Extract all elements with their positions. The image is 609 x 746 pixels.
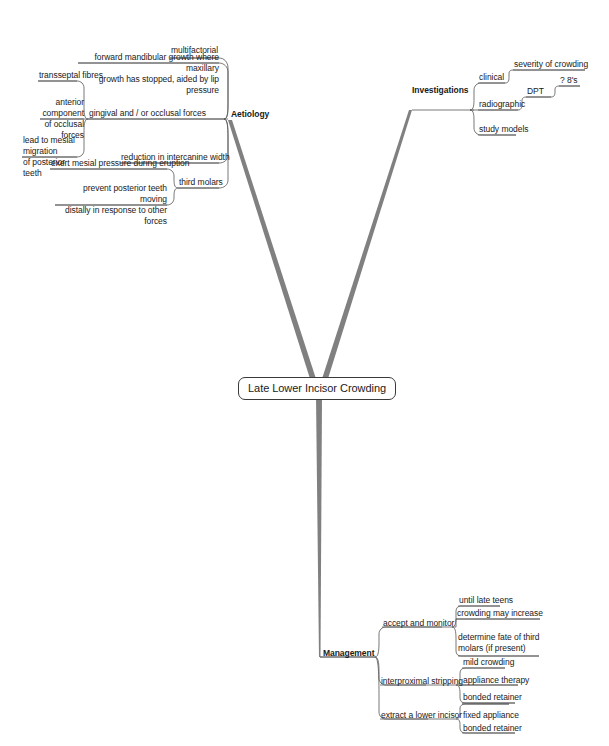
branch-label-investigations[interactable]: Investigations (412, 85, 468, 96)
aetiology-text: Aetiology (231, 109, 269, 119)
determine-fate-line2: molars (if present) (458, 643, 543, 654)
node-crowding-may-increase[interactable]: crowding may increase (457, 608, 543, 619)
crowding-increase-text: crowding may increase (457, 608, 543, 618)
node-extract-a-lower-incisor[interactable]: extract a lower incisor (381, 710, 462, 721)
anterior-comp-line1: anterior component (41, 97, 84, 119)
study-models-text: study models (479, 124, 528, 134)
dpt-text: DPT (527, 86, 544, 96)
bonded-retainer-1-text: bonded retainer (463, 692, 522, 702)
node-accept-and-monitor[interactable]: accept and monitor (383, 618, 454, 629)
node-question-eights[interactable]: ? 8's (560, 75, 577, 86)
node-transseptal-fibres[interactable]: transseptal fibres (39, 70, 103, 81)
branch-line-aetiology (228, 120, 318, 385)
prevent-post-line2: distally in response to other forces (56, 205, 167, 227)
node-gingival-occlusal-forces[interactable]: gingival and / or occlusal forces (89, 108, 206, 119)
management-text: Management (323, 648, 374, 658)
node-exert-mesial-pressure[interactable]: exert mesial pressure during eruption (51, 158, 189, 169)
node-radiographic[interactable]: radiographic (479, 99, 525, 110)
node-determine-fate-third-molars[interactable]: determine fate of third molars (if prese… (458, 632, 543, 654)
branch-line-investigations (320, 110, 412, 385)
branch-label-management[interactable]: Management (323, 648, 374, 659)
node-mesial-migration-posterior-teeth[interactable]: lead to mesial migration of posterior te… (23, 135, 77, 179)
node-mild-crowding[interactable]: mild crowding (463, 657, 514, 668)
gingival-occlusal-text: gingival and / or occlusal forces (89, 108, 206, 118)
determine-fate-line1: determine fate of third (458, 632, 543, 643)
accept-monitor-text: accept and monitor (383, 618, 454, 628)
fixed-appliance-text: fixed appliance (463, 710, 519, 720)
center-node-late-lower-incisor-crowding[interactable]: Late Lower Incisor Crowding (238, 377, 396, 400)
branch-label-aetiology[interactable]: Aetiology (231, 109, 269, 120)
severity-text: severity of crowding (514, 59, 588, 69)
exert-mesial-text: exert mesial pressure during eruption (51, 158, 189, 168)
mesial-migration-line1: lead to mesial migration (23, 135, 77, 157)
mindmap-canvas: Late Lower Incisor Crowding Aetiology mu… (0, 0, 609, 746)
node-clinical[interactable]: clinical (479, 72, 504, 83)
node-study-models[interactable]: study models (479, 124, 528, 135)
management-subtree-connectors (320, 627, 442, 719)
center-node-label: Late Lower Incisor Crowding (248, 382, 386, 394)
clinical-text: clinical (479, 72, 504, 82)
bonded-retainer-2-text: bonded retainer (463, 723, 522, 733)
node-appliance-therapy[interactable]: appliance therapy (463, 675, 529, 686)
eights-text: ? 8's (560, 75, 577, 85)
investigations-text: Investigations (412, 85, 468, 95)
until-late-teens-text: until late teens (459, 595, 513, 605)
node-interproximal-stripping[interactable]: interproximal stripping (381, 676, 463, 687)
node-bonded-retainer-extraction[interactable]: bonded retainer (463, 723, 522, 734)
prevent-post-line1: prevent posterior teeth moving (56, 183, 167, 205)
mild-crowding-text: mild crowding (463, 657, 514, 667)
node-fixed-appliance[interactable]: fixed appliance (463, 710, 519, 721)
node-third-molars[interactable]: third molars (179, 177, 223, 188)
node-bonded-retainer-interproximal[interactable]: bonded retainer (463, 692, 522, 703)
node-until-late-teens[interactable]: until late teens (459, 595, 513, 606)
interproximal-text: interproximal stripping (381, 676, 463, 686)
branch-line-management (316, 396, 322, 657)
third-molars-text: third molars (179, 177, 223, 187)
extract-incisor-text: extract a lower incisor (381, 710, 462, 720)
node-severity-of-crowding[interactable]: severity of crowding (514, 59, 588, 70)
node-prevent-posterior-teeth-moving[interactable]: prevent posterior teeth moving distally … (56, 183, 167, 227)
management-label-underlines (320, 627, 456, 719)
radiographic-text: radiographic (479, 99, 525, 109)
appliance-therapy-text: appliance therapy (463, 675, 529, 685)
transseptal-text: transseptal fibres (39, 70, 103, 80)
node-dpt[interactable]: DPT (527, 86, 544, 97)
